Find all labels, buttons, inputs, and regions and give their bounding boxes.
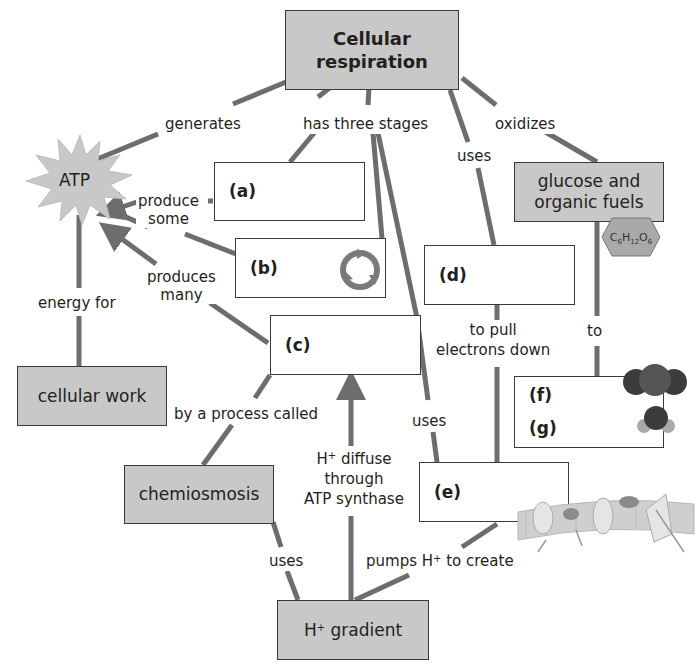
link-label-by-a-process-called: by a process called bbox=[172, 405, 320, 424]
atp-label: ATP bbox=[57, 171, 92, 190]
glucose-line1: glucose and bbox=[538, 171, 641, 192]
produces-many-line1: produces bbox=[147, 268, 216, 286]
glucose-line2: organic fuels bbox=[534, 192, 643, 213]
link-label-oxidizes: oxidizes bbox=[493, 115, 557, 134]
molecules-icon bbox=[620, 362, 690, 452]
blank-f-label: (f) bbox=[529, 385, 552, 406]
h-diffuse-line1: H+ diffuse bbox=[304, 449, 404, 469]
chemiosmosis-node: chemiosmosis bbox=[124, 465, 274, 524]
blank-g-label: (g) bbox=[529, 418, 557, 439]
blank-c-label: (c) bbox=[285, 335, 311, 356]
blank-b-label: (b) bbox=[250, 258, 278, 279]
pumps-part2: to create bbox=[446, 552, 513, 570]
h-gradient-label: H+ diffusegradient bbox=[304, 620, 402, 641]
produces-many-line2: many bbox=[147, 286, 216, 304]
link-label-to: to bbox=[585, 322, 604, 341]
link-label-uses-top: uses bbox=[455, 147, 493, 166]
link-label-has-three-stages: has three stages bbox=[301, 115, 430, 134]
cycle-arrows-icon bbox=[335, 245, 385, 295]
glucose-node: glucose and organic fuels bbox=[514, 162, 664, 222]
membrane-illustration-icon bbox=[516, 490, 696, 562]
link-label-uses-mid: uses bbox=[410, 412, 448, 431]
chemiosmosis-label: chemiosmosis bbox=[139, 484, 260, 505]
root-line1: Cellular bbox=[333, 27, 411, 50]
root-line2: respiration bbox=[316, 50, 428, 73]
blank-a-label: (a) bbox=[229, 181, 256, 202]
to-pull-line2: electrons down bbox=[436, 340, 550, 360]
link-label-pumps-h-to-create: pumps H+ to create bbox=[364, 552, 516, 571]
blank-c-node[interactable]: (c) bbox=[270, 315, 421, 375]
glucose-hexagon-icon: C6H12O6 bbox=[600, 216, 662, 258]
cellular-respiration-node: Cellular respiration bbox=[285, 10, 459, 90]
cellular-work-node: cellular work bbox=[17, 366, 167, 426]
co2-molecule-icon bbox=[623, 364, 687, 396]
link-label-uses-bottom: uses bbox=[267, 552, 305, 571]
blank-d-label: (d) bbox=[439, 265, 467, 286]
produce-some-line1: produce bbox=[138, 192, 199, 210]
link-label-generates: generates bbox=[163, 115, 243, 134]
pumps-part1: pumps H bbox=[366, 552, 433, 570]
cellular-work-label: cellular work bbox=[38, 386, 147, 407]
to-pull-line1: to pull bbox=[436, 320, 550, 340]
produce-some-line2: some bbox=[138, 210, 199, 228]
link-label-produces-many: produces many bbox=[145, 268, 218, 304]
link-label-h-diffuse: H+ diffuse through ATP synthase bbox=[302, 449, 406, 509]
blank-a-node[interactable]: (a) bbox=[214, 162, 365, 221]
link-label-to-pull-electrons-down: to pull electrons down bbox=[434, 320, 552, 360]
h-diffuse-line3: ATP synthase bbox=[304, 489, 404, 509]
link-label-energy-for: energy for bbox=[36, 294, 118, 313]
h-gradient-node: H+ diffusegradient bbox=[277, 600, 429, 660]
link-label-produce-some: produce some bbox=[136, 192, 201, 228]
h-diffuse-line2: through bbox=[304, 469, 404, 489]
h2o-molecule-icon bbox=[637, 406, 675, 433]
blank-e-label: (e) bbox=[434, 482, 461, 503]
blank-d-node[interactable]: (d) bbox=[424, 245, 575, 305]
